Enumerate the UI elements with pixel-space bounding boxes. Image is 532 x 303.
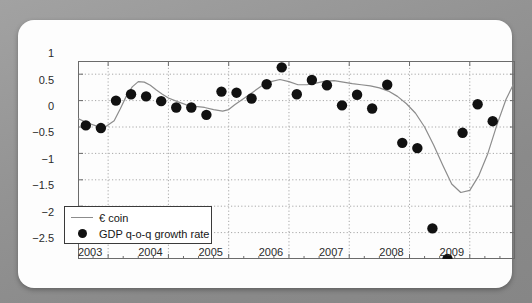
x-axis-tick-labels: 2003200420052006200720082009 xyxy=(0,0,532,303)
legend-item-ecoin: € coin xyxy=(65,209,128,226)
x-tick-label: 2004 xyxy=(130,247,170,258)
legend-item-gdp: GDP q-o-q growth rate xyxy=(65,225,209,242)
x-tick-label: 2006 xyxy=(251,247,291,258)
legend-dot-icon xyxy=(65,229,99,238)
legend-label-gdp: GDP q-o-q growth rate xyxy=(99,228,209,240)
x-tick-label: 2005 xyxy=(191,247,231,258)
legend-label-ecoin: € coin xyxy=(99,212,128,224)
x-tick-label: 2008 xyxy=(372,247,412,258)
chart-legend: € coin GDP q-o-q growth rate xyxy=(64,206,212,244)
x-tick-label: 2009 xyxy=(432,247,472,258)
legend-line-icon xyxy=(65,217,99,218)
x-tick-label: 2007 xyxy=(311,247,351,258)
x-tick-label: 2003 xyxy=(70,247,110,258)
